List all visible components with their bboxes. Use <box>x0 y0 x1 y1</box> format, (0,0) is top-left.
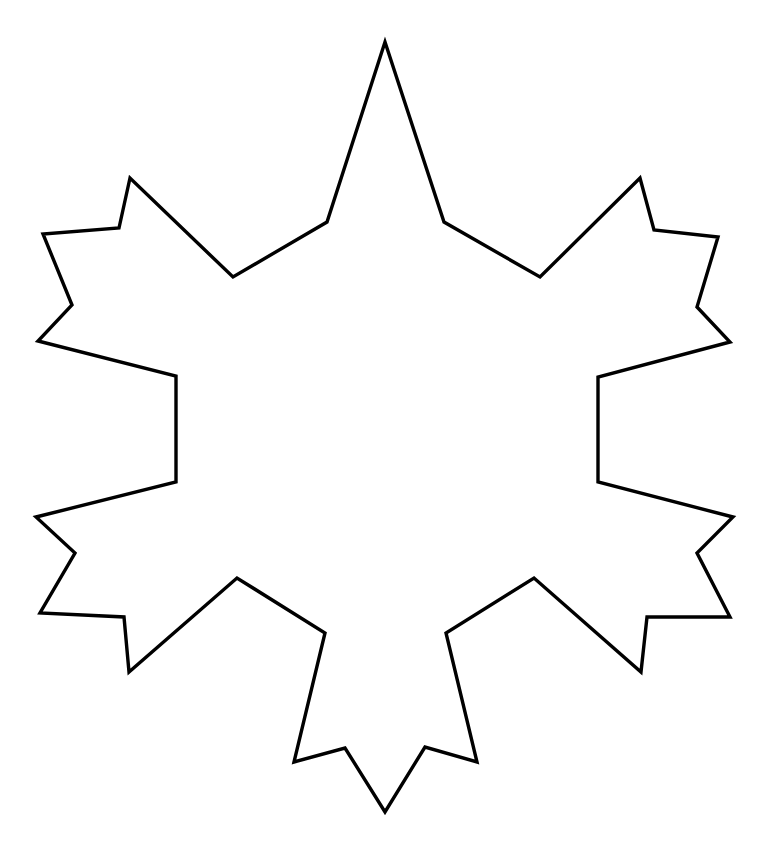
snowflake-svg <box>0 0 775 858</box>
snowflake-artwork-canvas <box>0 0 775 858</box>
